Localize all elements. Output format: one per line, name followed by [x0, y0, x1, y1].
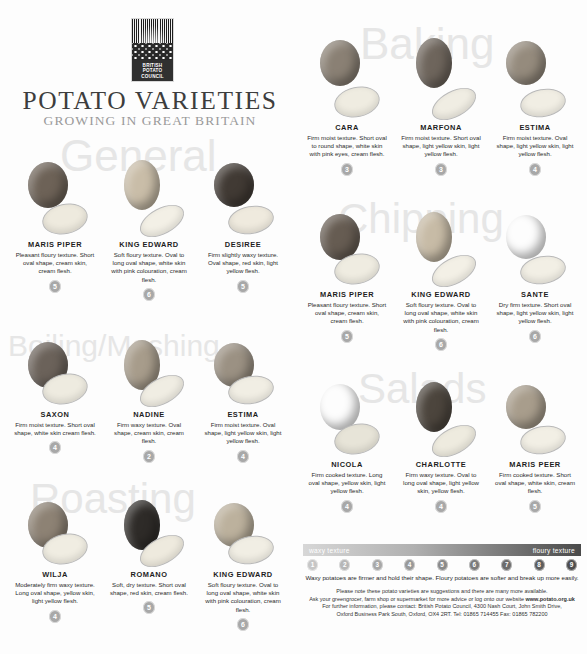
scale-number: 1 [307, 559, 318, 571]
potato-varieties-poster: BRITISH POTATO COUNCIL POTATO VARIETIES … [0, 0, 587, 654]
variety-name: KING EDWARD [394, 290, 488, 299]
section-chipping: MARIS PIPERPleasant floury texture. Shor… [300, 212, 582, 351]
variety-description: Soft floury texture. Oval to long oval s… [196, 581, 290, 614]
variety-description: Firm cooked texture. Long oval shape, ye… [300, 471, 394, 496]
scale-left-label: waxy texture [309, 547, 350, 554]
variety-description: Firm moist texture. Oval shape, light ye… [488, 134, 582, 159]
variety-texture-rating-badge: 3 [341, 163, 353, 176]
variety-card[interactable]: DESIREEFirm slightly waxy texture. Oval … [196, 160, 290, 301]
footer-line-4: Oxford Business Park South, Oxford, OX4 … [303, 611, 581, 619]
variety-card[interactable]: ESTIMAFirm moist texture. Oval shape, li… [488, 38, 582, 176]
variety-card[interactable]: SANTEDry firm texture. Short oval shape,… [488, 212, 582, 351]
variety-description: Soft, dry texture. Short oval shape, red… [102, 581, 196, 597]
variety-description: Firm waxy texture. Oval to long oval sha… [394, 471, 488, 496]
potato-illustration [8, 500, 102, 570]
variety-description: Firm waxy texture. Oval shape, cream ski… [102, 421, 196, 446]
potato-illustration [488, 212, 582, 290]
variety-name: KING EDWARD [196, 570, 290, 579]
variety-description: Pleasant floury texture. Short oval shap… [8, 251, 102, 276]
variety-name: ROMANO [102, 570, 196, 579]
potato-whole-icon [416, 38, 452, 88]
potato-illustration [394, 212, 488, 290]
variety-card[interactable]: MARIS PIPERPleasant floury texture. Shor… [8, 160, 102, 301]
potato-illustration [300, 382, 394, 460]
texture-scale-note: Waxy potatoes are firmer and hold their … [303, 574, 581, 581]
potato-illustration [102, 500, 196, 570]
texture-scale: waxy texture floury texture 123456789 [303, 544, 581, 571]
potato-half-icon [331, 83, 382, 122]
scale-number: 2 [339, 559, 350, 571]
variety-name: DESIREE [196, 240, 290, 249]
potato-illustration [102, 340, 196, 410]
variety-card[interactable]: CARAFirm moist texture. Short oval to ro… [300, 38, 394, 176]
variety-card[interactable]: ESTIMAFirm moist texture. Oval shape, li… [196, 340, 290, 463]
texture-scale-numbers: 123456789 [303, 559, 581, 571]
potato-whole-icon [506, 41, 546, 85]
scale-number: 7 [501, 559, 512, 571]
potato-illustration [394, 38, 488, 123]
variety-card[interactable]: CHARLOTTEFirm waxy texture. Oval to long… [394, 382, 488, 513]
variety-row: MARIS PIPERPleasant floury texture. Shor… [8, 160, 290, 301]
variety-card[interactable]: ROMANOSoft, dry texture. Short oval shap… [102, 500, 196, 631]
scale-number: 5 [437, 559, 448, 571]
potato-whole-icon [506, 385, 546, 429]
logo-line-3: COUNCIL [141, 74, 163, 80]
variety-description: Firm moist texture. Short oval to round … [300, 134, 394, 159]
variety-texture-rating-badge: 4 [529, 163, 541, 176]
variety-card[interactable]: NADINEFirm waxy texture. Oval shape, cre… [102, 340, 196, 463]
potato-illustration [8, 160, 102, 240]
scale-right-label: floury texture [533, 547, 575, 554]
variety-card[interactable]: MARIS PEERFirm cooked texture. Short ova… [488, 382, 582, 513]
potato-whole-icon [416, 382, 452, 432]
variety-description: Firm moist texture. Short oval shape, wh… [8, 421, 102, 437]
variety-texture-rating-badge: 5 [341, 330, 353, 343]
variety-description: Firm moist texture. Oval shape, light ye… [196, 421, 290, 446]
variety-description: Moderately firm waxy texture. Long oval … [8, 581, 102, 606]
logo-dot-pattern [132, 43, 173, 60]
variety-card[interactable]: MARFONAFirm moist texture. Short oval sh… [394, 38, 488, 176]
variety-name: SANTE [488, 290, 582, 299]
potato-whole-icon [124, 160, 160, 210]
section-general: MARIS PIPERPleasant floury texture. Shor… [8, 160, 290, 301]
variety-name: NADINE [102, 410, 196, 419]
variety-texture-rating-badge: 4 [435, 500, 447, 513]
variety-texture-rating-badge: 5 [237, 280, 249, 293]
variety-texture-rating-badge: 5 [143, 601, 155, 614]
scale-number: 8 [534, 559, 545, 571]
variety-card[interactable]: KING EDWARDSoft floury texture. Oval to … [196, 500, 290, 631]
footer-line-3: For further information, please contact:… [303, 603, 581, 611]
potato-half-icon [427, 81, 482, 126]
variety-texture-rating-badge: 4 [49, 441, 61, 454]
variety-card[interactable]: SAXONFirm moist texture. Short oval shap… [8, 340, 102, 463]
potato-illustration [8, 340, 102, 410]
potato-whole-icon [506, 215, 546, 259]
section-baking: CARAFirm moist texture. Short oval to ro… [300, 38, 582, 176]
potato-illustration [488, 38, 582, 123]
variety-name: MARFONA [394, 123, 488, 132]
variety-card[interactable]: MARIS PIPERPleasant floury texture. Shor… [300, 212, 394, 351]
variety-texture-rating-badge: 6 [435, 338, 447, 351]
variety-description: Dry firm texture. Short oval shape, ligh… [488, 301, 582, 326]
variety-texture-rating-badge: 4 [237, 450, 249, 463]
scale-number: 9 [566, 559, 577, 571]
footer-line-1: Please note these potato varieties are s… [303, 588, 581, 596]
variety-description: Firm cooked texture. Short oval shape, w… [488, 471, 582, 496]
footer: Please note these potato varieties are s… [303, 588, 581, 618]
potato-illustration [300, 38, 394, 123]
variety-description: Firm moist texture. Short oval shape, li… [394, 134, 488, 159]
variety-card[interactable]: WILJAModerately firm waxy texture. Long … [8, 500, 102, 631]
variety-row: WILJAModerately firm waxy texture. Long … [8, 500, 290, 631]
potato-whole-icon [320, 40, 360, 86]
variety-texture-rating-badge: 2 [143, 450, 155, 463]
potato-illustration [102, 160, 196, 240]
variety-card[interactable]: KING EDWARDSoft floury texture. Oval to … [102, 160, 196, 301]
website-url[interactable]: www.potato.org.uk [526, 596, 575, 602]
variety-texture-rating-badge: 6 [143, 288, 155, 301]
variety-texture-rating-badge: 5 [529, 500, 541, 513]
variety-texture-rating-badge: 6 [529, 330, 541, 343]
potato-illustration [488, 382, 582, 460]
variety-card[interactable]: NICOLAFirm cooked texture. Long oval sha… [300, 382, 394, 513]
page-title: POTATO VARIETIES [0, 86, 300, 116]
variety-card[interactable]: KING EDWARDSoft floury texture. Oval to … [394, 212, 488, 351]
variety-description: Soft floury texture. Oval to long oval s… [394, 301, 488, 334]
